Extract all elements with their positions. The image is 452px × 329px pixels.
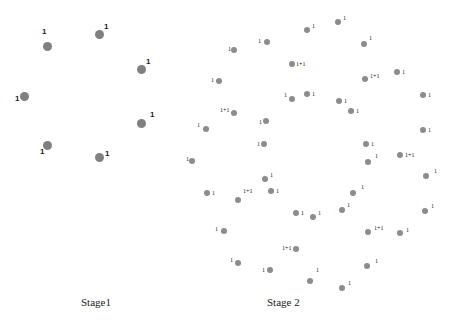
graph-node bbox=[231, 47, 237, 53]
graph-node bbox=[363, 141, 369, 147]
graph-node bbox=[310, 214, 316, 220]
graph-node bbox=[137, 119, 146, 128]
graph-node bbox=[95, 153, 104, 162]
node-weight-label: 1 bbox=[402, 69, 405, 75]
graph-node bbox=[263, 118, 269, 124]
graph-node bbox=[420, 92, 426, 98]
node-weight-label: 1 bbox=[406, 227, 409, 233]
graph-node bbox=[339, 207, 345, 213]
node-weight-label: 1 bbox=[344, 98, 347, 104]
graph-node bbox=[336, 98, 342, 104]
graph-node bbox=[264, 39, 270, 45]
node-weight-label: 1+1 bbox=[243, 188, 252, 194]
graph-node bbox=[361, 41, 367, 47]
graph-node bbox=[268, 188, 274, 194]
graph-node bbox=[289, 96, 295, 102]
graph-node bbox=[231, 110, 237, 116]
graph-node bbox=[350, 190, 356, 196]
node-weight-label: 1 bbox=[42, 28, 46, 36]
graph-node bbox=[397, 152, 403, 158]
node-weight-label: 1 bbox=[348, 280, 351, 286]
node-weight-label: 1 bbox=[230, 257, 233, 263]
node-weight-label: 1 bbox=[212, 190, 215, 196]
graph-node bbox=[20, 92, 29, 101]
node-weight-label: 1 bbox=[262, 267, 265, 273]
stage1-label: Stage1 bbox=[81, 296, 111, 308]
graph-node bbox=[339, 285, 345, 291]
graph-node bbox=[235, 197, 241, 203]
node-weight-label: 1 bbox=[105, 150, 109, 158]
graph-node bbox=[304, 27, 310, 33]
graph-node bbox=[423, 173, 429, 179]
node-weight-label: 1 bbox=[318, 210, 321, 216]
graph-node bbox=[267, 267, 273, 273]
node-weight-label: 1+1 bbox=[296, 61, 305, 67]
node-weight-label: 1+1 bbox=[405, 152, 414, 158]
node-weight-label: 1+1 bbox=[220, 107, 229, 113]
node-weight-label: 1 bbox=[301, 210, 304, 216]
graph-node bbox=[348, 108, 354, 114]
node-weight-label: 1 bbox=[146, 58, 150, 66]
graph-node bbox=[293, 210, 299, 216]
node-weight-label: 1 bbox=[104, 23, 108, 31]
graph-node bbox=[365, 159, 371, 165]
node-weight-label: 1+1 bbox=[370, 73, 379, 79]
graph-node bbox=[335, 19, 341, 25]
graph-node bbox=[262, 176, 268, 182]
graph-node bbox=[261, 141, 267, 147]
graph-node bbox=[221, 228, 227, 234]
graph-node bbox=[364, 263, 370, 269]
graph-node bbox=[216, 78, 222, 84]
node-weight-label: 1 bbox=[211, 77, 214, 83]
graph-node bbox=[204, 190, 210, 196]
node-weight-label: 1+1 bbox=[282, 245, 291, 251]
node-weight-label: 1 bbox=[356, 108, 359, 114]
graph-node bbox=[189, 158, 195, 164]
node-weight-label: 1 bbox=[258, 38, 261, 44]
node-weight-label: 1 bbox=[259, 119, 262, 125]
node-weight-label: 1 bbox=[284, 92, 287, 98]
node-weight-label: 1 bbox=[276, 188, 279, 194]
node-weight-label: 1 bbox=[361, 184, 364, 190]
node-weight-label: 1 bbox=[312, 91, 315, 97]
node-weight-label: 1 bbox=[369, 35, 372, 41]
graph-node bbox=[293, 246, 299, 252]
graph-node bbox=[394, 69, 400, 75]
node-weight-label: 1 bbox=[312, 23, 315, 29]
graph-node bbox=[235, 260, 241, 266]
stage2-label: Stage 2 bbox=[267, 296, 300, 308]
node-weight-label: 1 bbox=[316, 267, 319, 273]
node-weight-label: 1 bbox=[186, 156, 189, 162]
node-weight-label: 1 bbox=[428, 92, 431, 98]
graph-node bbox=[95, 30, 104, 39]
graph-node bbox=[422, 208, 428, 214]
node-weight-label: 1 bbox=[257, 141, 260, 147]
node-weight-label: 1 bbox=[228, 46, 231, 52]
node-weight-label: 1 bbox=[375, 153, 378, 159]
node-weight-label: 1 bbox=[371, 141, 374, 147]
node-weight-label: 1 bbox=[15, 95, 19, 103]
node-weight-label: 1+1 bbox=[374, 225, 383, 231]
graph-node bbox=[43, 42, 52, 51]
graph-node bbox=[304, 91, 310, 97]
node-weight-label: 1 bbox=[197, 122, 200, 128]
node-weight-label: 1 bbox=[434, 168, 437, 174]
node-weight-label: 1 bbox=[375, 258, 378, 264]
graph-node bbox=[307, 278, 313, 284]
cropped-caption-line bbox=[0, 322, 452, 329]
graph-node bbox=[397, 230, 403, 236]
graph-node bbox=[365, 229, 371, 235]
node-weight-label: 1 bbox=[150, 111, 154, 119]
node-weight-label: 1 bbox=[40, 148, 44, 156]
node-weight-label: 1 bbox=[215, 226, 218, 232]
graph-node bbox=[137, 65, 146, 74]
node-weight-label: 1 bbox=[428, 127, 431, 133]
node-weight-label: 1 bbox=[431, 203, 434, 209]
node-weight-label: 1 bbox=[270, 172, 273, 178]
diagram-canvas: 1111111 111111+111+11111111+111111111+11… bbox=[0, 0, 452, 329]
node-weight-label: 1 bbox=[347, 202, 350, 208]
graph-node bbox=[203, 126, 209, 132]
graph-node bbox=[362, 76, 368, 82]
graph-node bbox=[289, 61, 295, 67]
node-weight-label: 1 bbox=[343, 15, 346, 21]
